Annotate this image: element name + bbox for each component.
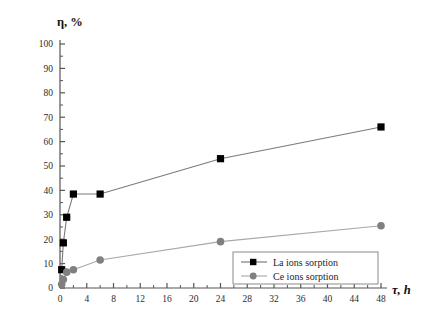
x-tick-label: 4 bbox=[84, 294, 89, 304]
y-tick-label: 0 bbox=[48, 283, 53, 293]
chart-legend: La ions sorptionCe ions sorption bbox=[233, 252, 378, 284]
legend-label: Ce ions sorption bbox=[273, 271, 339, 282]
x-tick-label: 12 bbox=[136, 294, 146, 304]
y-tick-label: 40 bbox=[44, 186, 54, 196]
data-point bbox=[63, 214, 70, 221]
y-tick-label: 100 bbox=[39, 39, 54, 49]
legend-marker-square bbox=[250, 259, 256, 265]
y-tick-label: 90 bbox=[44, 64, 54, 74]
x-tick-label: 20 bbox=[189, 294, 199, 304]
data-point bbox=[377, 123, 384, 130]
data-point bbox=[60, 276, 68, 284]
data-point bbox=[377, 222, 385, 230]
x-axis-title: τ, h bbox=[392, 283, 411, 297]
x-tick-label: 8 bbox=[111, 294, 116, 304]
x-tick-label: 44 bbox=[350, 294, 360, 304]
y-tick-label: 70 bbox=[44, 113, 54, 123]
y-tick-label: 80 bbox=[44, 88, 54, 98]
data-point bbox=[217, 155, 224, 162]
x-tick-label: 32 bbox=[269, 294, 279, 304]
data-point bbox=[96, 256, 104, 264]
legend-marker-circle bbox=[250, 273, 257, 280]
data-point bbox=[70, 266, 78, 274]
data-point bbox=[60, 239, 67, 246]
x-tick-label: 40 bbox=[323, 294, 333, 304]
chart-figure: η, % τ, h 0102030405060708090100 0481216… bbox=[0, 0, 427, 324]
x-tick-label: 36 bbox=[296, 294, 306, 304]
y-tick-label: 50 bbox=[44, 161, 54, 171]
data-point bbox=[97, 190, 104, 197]
x-tick-label: 28 bbox=[243, 294, 253, 304]
data-point bbox=[217, 238, 225, 246]
x-tick-label: 48 bbox=[376, 294, 386, 304]
sorption-kinetics-chart: η, % τ, h 0102030405060708090100 0481216… bbox=[0, 0, 427, 324]
y-tick-label: 20 bbox=[44, 235, 54, 245]
y-axis-title: η, % bbox=[57, 15, 83, 29]
x-tick-label: 0 bbox=[58, 294, 63, 304]
x-tick-label: 24 bbox=[216, 294, 226, 304]
data-point bbox=[70, 190, 77, 197]
y-tick-label: 60 bbox=[44, 137, 54, 147]
x-tick-label: 16 bbox=[162, 294, 172, 304]
legend-label: La ions sorption bbox=[273, 257, 338, 268]
y-tick-label: 10 bbox=[44, 259, 54, 269]
y-tick-label: 30 bbox=[44, 210, 54, 220]
data-point bbox=[63, 268, 71, 276]
